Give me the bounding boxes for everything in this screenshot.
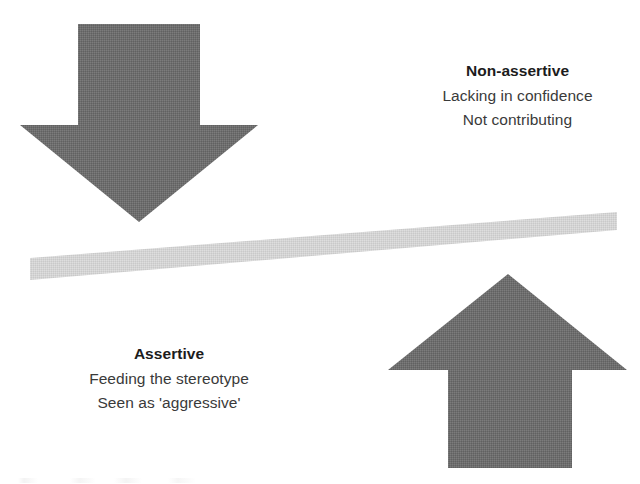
up-arrow-icon — [388, 274, 627, 468]
assertive-line-1: Feeding the stereotype — [55, 368, 283, 390]
assertive-label-group: Assertive Feeding the stereotype Seen as… — [55, 343, 283, 416]
assertive-title: Assertive — [55, 343, 283, 365]
nonassertive-title: Non-assertive — [405, 60, 630, 82]
nonassertive-label-group: Non-assertive Lacking in confidence Not … — [405, 60, 630, 133]
assertive-line-2: Seen as 'aggressive' — [55, 392, 283, 414]
nonassertive-line-1: Lacking in confidence — [405, 85, 630, 107]
diagram-canvas: Non-assertive Lacking in confidence Not … — [0, 0, 640, 484]
down-arrow-icon — [20, 24, 258, 222]
seesaw-beam — [30, 212, 617, 280]
nonassertive-line-2: Not contributing — [405, 109, 630, 131]
